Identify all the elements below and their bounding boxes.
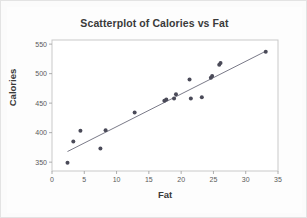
x-axis-label: Fat [52,189,278,200]
data-point [188,78,192,82]
x-tick-label: 0 [50,176,54,183]
data-point [78,129,82,133]
data-point [189,96,193,100]
data-point [98,147,102,151]
data-point [65,161,69,165]
data-point [164,98,168,102]
plot-frame [52,40,278,171]
x-tick-label: 10 [113,176,121,183]
data-point [133,111,137,115]
x-axis-ticks: 05101520253035 [50,171,282,183]
y-tick-label: 550 [35,41,47,48]
data-point [264,50,268,54]
y-axis-label: Calories [7,53,18,123]
x-tick-label: 35 [274,176,282,183]
y-tick-label: 500 [35,70,47,77]
x-tick-label: 5 [82,176,86,183]
data-point [174,92,178,96]
y-axis-ticks: 350400450500550 [35,41,52,166]
data-point [219,61,223,65]
y-tick-label: 450 [35,100,47,107]
x-tick-label: 30 [242,176,250,183]
data-point [210,74,214,78]
data-point [200,95,204,99]
scatterplot-svg: 350400450500550 05101520253035 [1,1,307,218]
y-tick-label: 400 [35,129,47,136]
data-point [172,96,176,100]
x-tick-label: 25 [210,176,218,183]
data-point [104,128,108,132]
x-tick-label: 15 [145,176,153,183]
x-tick-label: 20 [177,176,185,183]
chart-figure: Scatterplot of Calories vs Fat 350400450… [0,0,307,218]
data-point [71,139,75,143]
y-tick-label: 350 [35,159,47,166]
